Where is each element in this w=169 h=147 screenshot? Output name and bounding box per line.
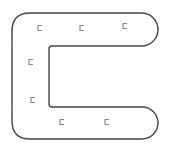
bracket-marker-icon [60,120,64,125]
bracket-marker-icon [80,26,84,31]
bracket-marker-icon [105,120,109,125]
bracket-marker-icon [31,98,35,103]
bracket-marker-icon [38,26,42,31]
c-shape-outline [12,13,158,139]
c-shape-diagram [0,0,169,147]
bracket-marker-icon [29,60,33,65]
marker-group [29,24,127,125]
bracket-marker-icon [123,24,127,29]
